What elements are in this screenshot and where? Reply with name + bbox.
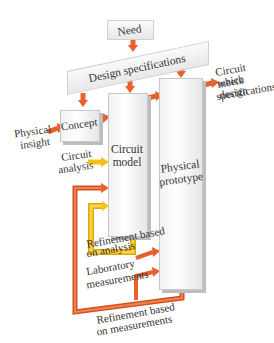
circuit-model-label-1: Circuit — [108, 143, 146, 155]
circuit-model-label-2: model — [108, 156, 146, 168]
